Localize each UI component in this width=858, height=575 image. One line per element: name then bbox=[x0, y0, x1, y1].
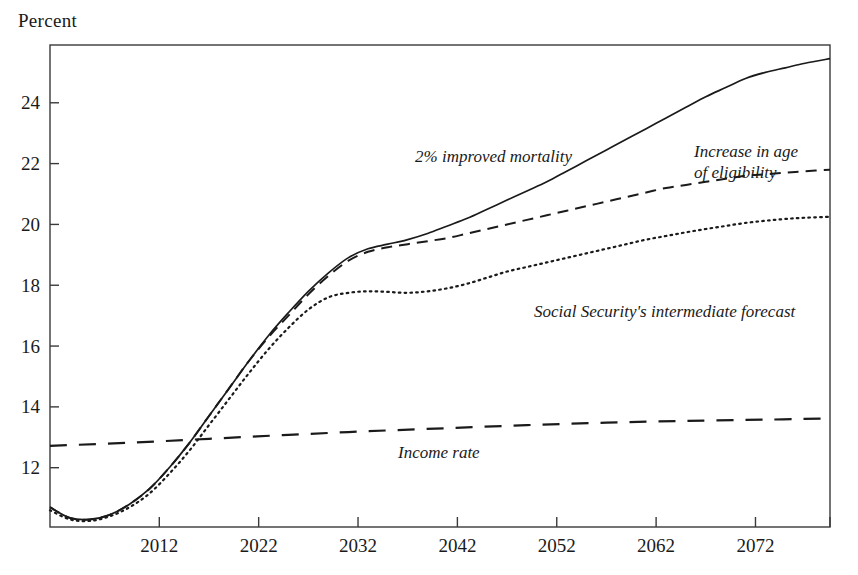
x-tick-label: 2022 bbox=[240, 535, 278, 556]
x-tick-label: 2062 bbox=[637, 535, 675, 556]
series-label: of eligibility bbox=[694, 163, 777, 182]
x-axis-ticks: 2012202220322042205220622072 bbox=[140, 517, 830, 556]
y-tick-label: 24 bbox=[21, 92, 41, 113]
series-annotations: 2% improved mortalityIncrease in ageof e… bbox=[397, 142, 799, 462]
x-tick-label: 2072 bbox=[736, 535, 774, 556]
chart-plot-area: 12141618202224 2012202220322042205220622… bbox=[0, 0, 858, 575]
series-line bbox=[50, 418, 830, 445]
x-tick-label: 2052 bbox=[538, 535, 576, 556]
y-tick-label: 18 bbox=[21, 275, 40, 296]
series-label: 2% improved mortality bbox=[415, 147, 573, 166]
series-line bbox=[50, 217, 830, 521]
chart-page: Percent 12141618202224 20122022203220422… bbox=[0, 0, 858, 575]
y-tick-label: 22 bbox=[21, 153, 40, 174]
x-tick-label: 2032 bbox=[339, 535, 377, 556]
series-line bbox=[50, 170, 830, 520]
series-label: Increase in age bbox=[693, 142, 799, 161]
series-label: Social Security's intermediate forecast bbox=[534, 302, 797, 321]
series-label: Income rate bbox=[397, 443, 480, 462]
y-tick-label: 12 bbox=[21, 457, 40, 478]
x-tick-label: 2012 bbox=[140, 535, 178, 556]
y-axis-ticks: 12141618202224 bbox=[21, 92, 59, 478]
y-tick-label: 14 bbox=[21, 396, 41, 417]
x-tick-label: 2042 bbox=[438, 535, 476, 556]
y-tick-label: 16 bbox=[21, 336, 40, 357]
y-tick-label: 20 bbox=[21, 214, 40, 235]
